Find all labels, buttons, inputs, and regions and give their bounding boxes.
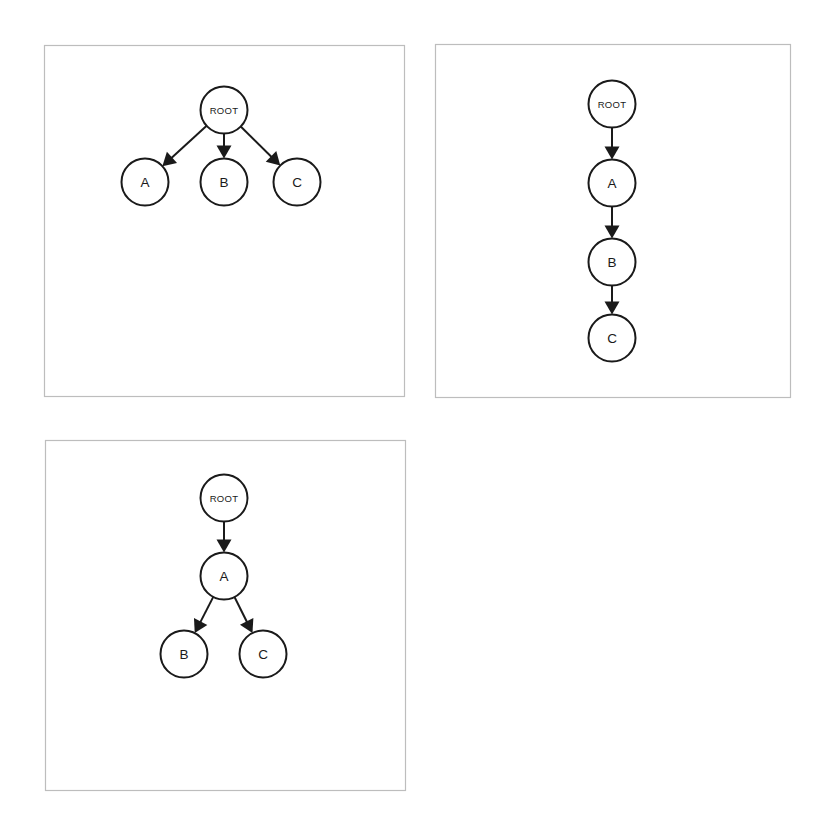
graph-node-a[interactable]: A <box>201 553 248 600</box>
graph-panel-3: ROOTABC <box>46 441 406 791</box>
node-label: C <box>258 647 268 662</box>
node-label: B <box>607 255 616 270</box>
node-label: C <box>292 175 302 190</box>
node-label: B <box>219 175 228 190</box>
node-label: ROOT <box>210 105 239 116</box>
graph-panel-2: ROOTABC <box>436 45 791 398</box>
node-label: ROOT <box>210 493 239 504</box>
node-label: C <box>607 331 617 346</box>
graph-node-b[interactable]: B <box>161 631 208 678</box>
node-label: A <box>607 176 616 191</box>
node-label: A <box>219 569 228 584</box>
graph-panel-1: ROOTABC <box>45 46 405 397</box>
graph-node-b[interactable]: B <box>201 159 248 206</box>
node-label: A <box>140 175 149 190</box>
diagram-canvas: ROOTABCROOTABCROOTABC <box>0 0 829 819</box>
graph-node-root[interactable]: ROOT <box>201 475 248 522</box>
graph-node-a[interactable]: A <box>122 159 169 206</box>
node-label: ROOT <box>598 99 627 110</box>
graph-node-c[interactable]: C <box>589 315 636 362</box>
graph-node-c[interactable]: C <box>240 631 287 678</box>
node-label: B <box>179 647 188 662</box>
graph-node-root[interactable]: ROOT <box>201 87 248 134</box>
graph-node-root[interactable]: ROOT <box>589 81 636 128</box>
graph-node-b[interactable]: B <box>589 239 636 286</box>
graph-node-a[interactable]: A <box>589 160 636 207</box>
graph-node-c[interactable]: C <box>274 159 321 206</box>
graph-panels-svg: ROOTABCROOTABCROOTABC <box>0 0 829 819</box>
